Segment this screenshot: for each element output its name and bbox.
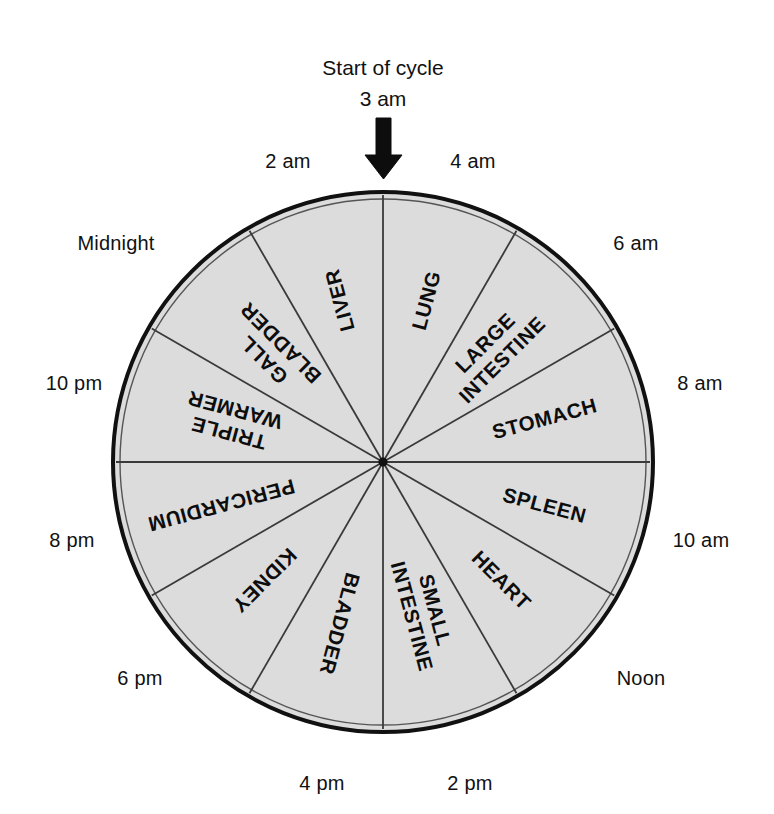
time-tick-label: 6 am <box>613 232 658 254</box>
time-tick-label: 10 pm <box>46 372 103 394</box>
time-tick-label: 8 pm <box>49 529 94 551</box>
time-tick-label: 8 am <box>677 372 722 394</box>
organ-clock-wheel-diagram: Start of cycle 3 am LUNGLARGEINTESTINEST… <box>0 0 774 814</box>
time-tick-label: 6 pm <box>117 667 162 689</box>
wheel-group: LUNGLARGEINTESTINESTOMACHSPLEENHEARTSMAL… <box>113 192 653 732</box>
down-arrow-icon <box>365 118 402 179</box>
time-tick-label: 2 am <box>265 150 310 172</box>
time-tick-label: 4 am <box>450 150 495 172</box>
time-tick-label: Midnight <box>77 232 154 254</box>
time-tick-label: 4 pm <box>299 772 344 794</box>
time-tick-label: Noon <box>617 667 666 689</box>
start-of-cycle-title: Start of cycle <box>322 56 443 79</box>
time-tick-label: 10 am <box>673 529 730 551</box>
wheel-center-hub <box>379 458 388 467</box>
diagram-canvas: Start of cycle 3 am LUNGLARGEINTESTINEST… <box>0 0 774 814</box>
start-of-cycle-time: 3 am <box>360 87 407 110</box>
time-tick-label: 2 pm <box>447 772 492 794</box>
